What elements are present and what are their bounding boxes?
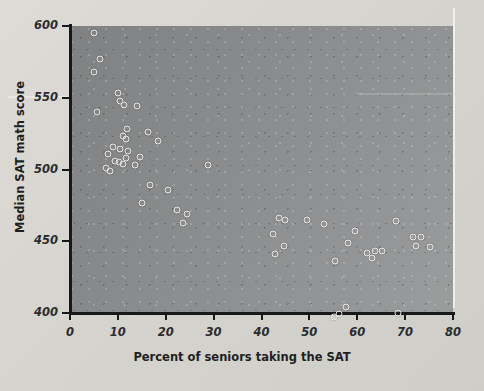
x-tick-label: 10 bbox=[98, 325, 138, 339]
y-tick-label: 400 bbox=[0, 305, 58, 319]
data-point bbox=[179, 219, 186, 226]
data-point bbox=[379, 248, 386, 255]
data-point bbox=[106, 167, 113, 174]
y-tick-mark bbox=[62, 169, 69, 171]
y-tick-label: 450 bbox=[0, 233, 58, 247]
data-point bbox=[105, 150, 112, 157]
data-point bbox=[304, 216, 311, 223]
data-point bbox=[97, 56, 104, 63]
y-tick-label: 550 bbox=[0, 90, 58, 104]
data-point bbox=[124, 126, 131, 133]
x-tick-label: 70 bbox=[385, 325, 425, 339]
data-point bbox=[427, 243, 434, 250]
data-point bbox=[164, 186, 171, 193]
x-tick-mark bbox=[356, 313, 358, 320]
data-point bbox=[116, 146, 123, 153]
x-tick-mark bbox=[261, 313, 263, 320]
data-point bbox=[120, 101, 127, 108]
data-point bbox=[120, 160, 127, 167]
data-point bbox=[409, 233, 416, 240]
y-tick-mark bbox=[62, 312, 69, 314]
data-point bbox=[155, 137, 162, 144]
x-tick-mark bbox=[69, 313, 71, 320]
panel-texture bbox=[70, 26, 453, 313]
x-tick-label: 30 bbox=[194, 325, 234, 339]
data-point bbox=[173, 206, 180, 213]
y-tick-mark bbox=[62, 97, 69, 99]
data-point bbox=[183, 210, 190, 217]
x-tick-mark bbox=[165, 313, 167, 320]
x-tick-mark bbox=[404, 313, 406, 320]
data-point bbox=[368, 255, 375, 262]
x-tick-label: 60 bbox=[337, 325, 377, 339]
data-point bbox=[271, 251, 278, 258]
data-point bbox=[91, 68, 98, 75]
data-point bbox=[269, 231, 276, 238]
data-point bbox=[122, 136, 129, 143]
data-point bbox=[204, 162, 211, 169]
x-tick-label: 80 bbox=[433, 325, 473, 339]
x-tick-label: 20 bbox=[146, 325, 186, 339]
y-axis-title: Median SAT math score bbox=[13, 57, 27, 257]
data-point bbox=[332, 258, 339, 265]
data-point bbox=[412, 242, 419, 249]
x-tick-mark bbox=[213, 313, 215, 320]
y-axis-line bbox=[69, 24, 72, 315]
y-tick-label: 600 bbox=[0, 18, 58, 32]
data-point bbox=[395, 310, 402, 317]
scatter-plot-figure: 40045050055060001020304050607080 Percent… bbox=[0, 0, 484, 391]
y-tick-mark bbox=[62, 240, 69, 242]
data-point bbox=[392, 218, 399, 225]
data-point bbox=[134, 103, 141, 110]
data-point bbox=[90, 30, 97, 37]
x-tick-mark bbox=[117, 313, 119, 320]
data-point bbox=[125, 147, 132, 154]
y-tick-mark bbox=[62, 25, 69, 27]
data-point bbox=[418, 233, 425, 240]
x-tick-mark bbox=[308, 313, 310, 320]
data-point bbox=[320, 221, 327, 228]
data-point bbox=[352, 228, 359, 235]
film-highlight-upper bbox=[356, 93, 454, 95]
plot-panel bbox=[70, 26, 453, 313]
x-axis-title: Percent of seniors taking the SAT bbox=[0, 350, 484, 364]
data-point bbox=[344, 239, 351, 246]
data-point bbox=[93, 109, 100, 116]
x-tick-label: 40 bbox=[242, 325, 282, 339]
data-point bbox=[138, 199, 145, 206]
data-point bbox=[147, 182, 154, 189]
data-point bbox=[114, 90, 121, 97]
data-point bbox=[145, 129, 152, 136]
data-point bbox=[342, 304, 349, 311]
x-tick-mark bbox=[452, 313, 454, 320]
data-point bbox=[280, 242, 287, 249]
x-tick-label: 0 bbox=[50, 325, 90, 339]
film-highlight-right bbox=[453, 8, 455, 308]
data-point bbox=[136, 153, 143, 160]
y-tick-label: 500 bbox=[0, 162, 58, 176]
data-point bbox=[282, 216, 289, 223]
data-point bbox=[132, 162, 139, 169]
data-point bbox=[336, 311, 343, 318]
x-tick-label: 50 bbox=[289, 325, 329, 339]
